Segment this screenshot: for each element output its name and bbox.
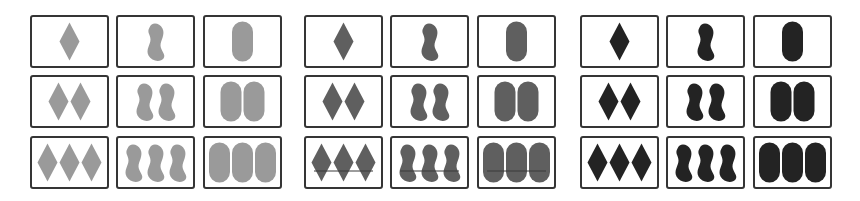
- oval-icon: [232, 143, 253, 183]
- oval-icon: [782, 22, 803, 62]
- card-medium-2-diamond[interactable]: [304, 75, 383, 128]
- card-medium-3-squiggle[interactable]: [390, 136, 469, 189]
- card-light-1-oval[interactable]: [203, 15, 282, 68]
- card-dark-3-oval[interactable]: [753, 136, 832, 189]
- diamond-icon: [71, 83, 91, 121]
- oval-icon: [506, 143, 527, 183]
- diamond-icon: [356, 144, 376, 182]
- card-dark-3-diamond[interactable]: [580, 136, 659, 189]
- diamond-icon: [621, 83, 641, 121]
- card-medium-3-diamond[interactable]: [304, 136, 383, 189]
- squiggle-icon: [709, 83, 726, 120]
- card-light-1-squiggle[interactable]: [116, 15, 195, 68]
- diamond-icon: [49, 83, 69, 121]
- diamond-icon: [610, 23, 630, 61]
- panel-medium: [304, 15, 557, 190]
- card-light-2-oval[interactable]: [203, 75, 282, 128]
- oval-icon: [495, 82, 516, 122]
- diamond-icon: [334, 144, 354, 182]
- card-medium-2-squiggle[interactable]: [390, 75, 469, 128]
- squiggle-icon: [126, 144, 143, 181]
- diamond-icon: [60, 23, 80, 61]
- panel-light: [30, 15, 283, 190]
- oval-icon: [518, 82, 539, 122]
- card-medium-1-oval[interactable]: [477, 15, 556, 68]
- oval-icon: [244, 82, 265, 122]
- diamond-icon: [588, 144, 608, 182]
- oval-icon: [483, 143, 504, 183]
- oval-icon: [232, 22, 253, 62]
- panel-dark: [580, 15, 833, 190]
- diamond-icon: [632, 144, 652, 182]
- card-dark-1-squiggle[interactable]: [666, 15, 745, 68]
- diamond-icon: [312, 144, 332, 182]
- diamond-icon: [610, 144, 630, 182]
- card-medium-2-oval[interactable]: [477, 75, 556, 128]
- card-medium-1-diamond[interactable]: [304, 15, 383, 68]
- card-light-2-squiggle[interactable]: [116, 75, 195, 128]
- card-medium-3-oval[interactable]: [477, 136, 556, 189]
- diamond-icon: [334, 23, 354, 61]
- squiggle-icon: [698, 144, 715, 181]
- diamond-icon: [345, 83, 365, 121]
- card-dark-2-squiggle[interactable]: [666, 75, 745, 128]
- oval-icon: [805, 143, 826, 183]
- diamond-icon: [38, 144, 58, 182]
- squiggle-icon: [411, 83, 428, 120]
- oval-icon: [771, 82, 792, 122]
- oval-icon: [782, 143, 803, 183]
- squiggle-icon: [159, 83, 176, 120]
- card-light-2-diamond[interactable]: [30, 75, 109, 128]
- card-dark-2-diamond[interactable]: [580, 75, 659, 128]
- oval-icon: [255, 143, 276, 183]
- squiggle-icon: [676, 144, 693, 181]
- diamond-icon: [599, 83, 619, 121]
- diamond-icon: [82, 144, 102, 182]
- card-dark-1-oval[interactable]: [753, 15, 832, 68]
- card-dark-3-squiggle[interactable]: [666, 136, 745, 189]
- squiggle-icon: [170, 144, 187, 181]
- card-light-3-oval[interactable]: [203, 136, 282, 189]
- squiggle-icon: [720, 144, 737, 181]
- diamond-icon: [60, 144, 80, 182]
- card-dark-2-oval[interactable]: [753, 75, 832, 128]
- card-dark-1-diamond[interactable]: [580, 15, 659, 68]
- card-light-3-squiggle[interactable]: [116, 136, 195, 189]
- squiggle-icon: [433, 83, 450, 120]
- squiggle-icon: [698, 23, 715, 60]
- squiggle-icon: [148, 144, 165, 181]
- squiggle-icon: [400, 144, 417, 181]
- diamond-icon: [323, 83, 343, 121]
- squiggle-icon: [137, 83, 154, 120]
- squiggle-icon: [148, 23, 165, 60]
- oval-icon: [506, 22, 527, 62]
- oval-icon: [529, 143, 550, 183]
- oval-icon: [209, 143, 230, 183]
- oval-icon: [221, 82, 242, 122]
- card-light-3-diamond[interactable]: [30, 136, 109, 189]
- squiggle-icon: [422, 144, 439, 181]
- card-medium-1-squiggle[interactable]: [390, 15, 469, 68]
- squiggle-icon: [444, 144, 461, 181]
- card-light-1-diamond[interactable]: [30, 15, 109, 68]
- squiggle-icon: [687, 83, 704, 120]
- oval-icon: [759, 143, 780, 183]
- squiggle-icon: [422, 23, 439, 60]
- oval-icon: [794, 82, 815, 122]
